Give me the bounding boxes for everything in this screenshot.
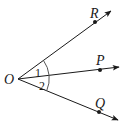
label-Q: Q [95, 96, 105, 111]
label-O: O [4, 72, 14, 87]
ray-OP [18, 67, 119, 79]
ray-OR [18, 11, 111, 79]
point-P [98, 68, 102, 72]
angle-diagram: R P Q O 1 2 [0, 0, 132, 133]
label-R: R [89, 6, 99, 21]
angle-label-2: 2 [39, 79, 45, 93]
angle-label-1: 1 [35, 66, 41, 80]
label-P: P [95, 53, 105, 68]
